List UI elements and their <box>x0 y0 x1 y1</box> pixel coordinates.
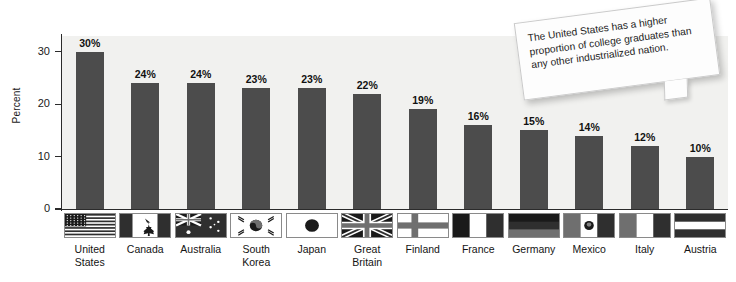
category-item: Great Britain <box>340 213 396 268</box>
bar <box>76 52 104 209</box>
flag-germany-icon <box>508 213 560 238</box>
bar-value-label: 19% <box>412 94 433 106</box>
category-item: South Korea <box>229 213 285 268</box>
y-tick-mark <box>55 156 62 157</box>
bar-column: 24% <box>173 36 229 209</box>
y-tick-label: 30 <box>16 45 50 57</box>
y-tick-mark <box>55 104 62 105</box>
bar <box>520 130 548 209</box>
flag-south-korea-icon <box>230 213 282 238</box>
category-label: Canada <box>118 243 174 256</box>
bar-column: 30% <box>62 36 118 209</box>
category-item: Canada <box>118 213 174 256</box>
bar-column: 19% <box>395 36 451 209</box>
category-item: Germany <box>506 213 562 256</box>
bar-value-label: 14% <box>579 121 600 133</box>
flag-united-states-icon <box>64 213 116 238</box>
y-tick-label: 20 <box>16 97 50 109</box>
bar-value-label: 16% <box>468 110 489 122</box>
category-label: France <box>451 243 507 256</box>
bar <box>409 109 437 209</box>
bar-value-label: 12% <box>634 131 655 143</box>
category-label: Austria <box>673 243 729 256</box>
category-item: Italy <box>617 213 673 256</box>
flag-japan-icon <box>286 213 338 238</box>
y-tick-mark <box>55 208 62 209</box>
bar <box>631 146 659 209</box>
y-tick-label: 0 <box>16 202 50 214</box>
bar <box>464 125 492 209</box>
flag-france-icon <box>452 213 504 238</box>
bar-column: 16% <box>451 36 507 209</box>
bar-value-label: 30% <box>79 37 100 49</box>
bar <box>353 94 381 209</box>
flag-canada-icon <box>119 213 171 238</box>
bar-value-label: 22% <box>357 79 378 91</box>
bar-value-label: 24% <box>190 68 211 80</box>
bar-value-label: 23% <box>301 73 322 85</box>
category-label: Japan <box>284 243 340 256</box>
category-item: France <box>451 213 507 256</box>
bar-column: 23% <box>229 36 285 209</box>
category-label: South Korea <box>229 243 285 268</box>
y-tick-label: 10 <box>16 150 50 162</box>
bar-value-label: 23% <box>246 73 267 85</box>
annotation-fold-corner <box>664 78 688 100</box>
flag-mexico-icon <box>563 213 615 238</box>
flag-austria-icon <box>674 213 726 238</box>
bar-value-label: 24% <box>135 68 156 80</box>
flag-finland-icon <box>397 213 449 238</box>
bar <box>575 136 603 209</box>
bar <box>242 88 270 209</box>
category-item: Japan <box>284 213 340 256</box>
bar <box>298 88 326 209</box>
flag-great-britain-icon <box>341 213 393 238</box>
chart-figure: Percent 0102030 30%24%24%23%23%22%19%16%… <box>0 0 736 282</box>
bar-column: 22% <box>340 36 396 209</box>
flag-italy-icon <box>619 213 671 238</box>
bar-column: 23% <box>284 36 340 209</box>
flag-australia-icon <box>175 213 227 238</box>
bar-value-label: 10% <box>690 142 711 154</box>
bar-value-label: 15% <box>523 115 544 127</box>
bar <box>187 83 215 209</box>
category-item: Finland <box>395 213 451 256</box>
category-item: Austria <box>673 213 729 256</box>
category-item: Mexico <box>562 213 618 256</box>
category-label: Finland <box>395 243 451 256</box>
annotation-text: The United States has a higher proportio… <box>527 9 705 72</box>
bar-column: 24% <box>118 36 174 209</box>
category-label: Italy <box>617 243 673 256</box>
category-label: Mexico <box>562 243 618 256</box>
category-label: Great Britain <box>340 243 396 268</box>
bar <box>131 83 159 209</box>
bar <box>686 157 714 209</box>
y-tick-mark <box>55 51 62 52</box>
category-item: United States <box>62 213 118 268</box>
category-label: Australia <box>173 243 229 256</box>
category-item: Australia <box>173 213 229 256</box>
category-label: United States <box>62 243 118 268</box>
category-label: Germany <box>506 243 562 256</box>
